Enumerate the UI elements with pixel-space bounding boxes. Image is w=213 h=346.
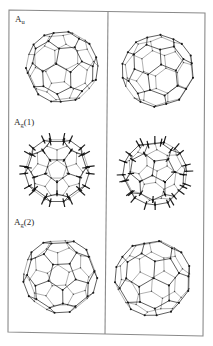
carbon-atom <box>147 143 149 145</box>
carbon-atom <box>37 153 39 155</box>
bond-line <box>125 55 133 65</box>
bond-line <box>57 94 60 102</box>
carbon-atom <box>134 97 136 99</box>
carbon-atom <box>74 99 76 101</box>
carbon-atom <box>81 90 83 92</box>
label-au-sub: u <box>22 18 25 25</box>
bond-line <box>146 204 155 205</box>
bond-line <box>161 143 171 150</box>
column-divider <box>105 11 108 334</box>
bond-line <box>161 65 176 71</box>
carbon-atom <box>55 99 57 101</box>
carbon-atom <box>152 199 154 201</box>
bond-line <box>49 41 60 48</box>
carbon-atom <box>29 154 31 156</box>
carbon-atom <box>125 302 127 304</box>
carbon-atom <box>159 49 161 51</box>
carbon-atom <box>27 259 29 261</box>
carbon-atom <box>50 241 52 243</box>
carbon-atom <box>49 36 51 38</box>
bond-line <box>144 153 154 161</box>
carbon-atom <box>93 271 95 273</box>
molecule-ag1-right <box>117 136 194 210</box>
carbon-atom <box>42 85 44 87</box>
carbon-atom <box>80 255 82 257</box>
carbon-atom <box>35 48 37 50</box>
carbon-atom <box>155 182 157 184</box>
carbon-atom <box>174 291 176 293</box>
carbon-atom <box>139 301 141 303</box>
bond-line <box>88 283 89 296</box>
carbon-atom <box>161 36 163 38</box>
carbon-atom <box>46 145 48 147</box>
carbon-atom <box>186 171 188 173</box>
carbon-atom <box>146 36 148 38</box>
carbon-atom <box>93 61 95 63</box>
carbon-atom <box>139 180 141 182</box>
carbon-atom <box>125 277 127 279</box>
displacement-arrow <box>19 173 28 174</box>
bond-line <box>147 45 161 50</box>
bond-line <box>36 41 49 48</box>
carbon-atom <box>153 277 155 279</box>
carbon-atom <box>147 73 149 75</box>
carbon-atom <box>160 64 162 66</box>
carbon-atom <box>182 58 184 60</box>
carbon-atom <box>76 252 78 254</box>
bond-line <box>151 37 162 41</box>
molecule-ag1-left <box>19 133 94 207</box>
carbon-atom <box>127 77 128 79</box>
bond-line <box>49 265 53 281</box>
carbon-atom <box>134 197 136 199</box>
carbon-atom <box>164 193 166 195</box>
carbon-atom <box>179 152 181 154</box>
carbon-atom <box>167 202 169 204</box>
carbon-atom <box>42 242 44 244</box>
displacement-arrow <box>86 173 95 174</box>
bond-line <box>63 35 66 44</box>
bond-line <box>161 198 170 199</box>
carbon-atom <box>155 105 157 107</box>
bond-line <box>151 252 163 258</box>
bond-line <box>61 100 76 102</box>
carbon-atom <box>146 165 148 167</box>
carbon-atom <box>31 154 33 156</box>
bond-line <box>129 161 130 172</box>
carbon-atom <box>23 273 25 275</box>
carbon-atom <box>156 88 158 90</box>
bond-line <box>170 190 178 199</box>
carbon-atom <box>79 97 81 99</box>
carbon-atom <box>128 80 130 82</box>
carbon-atom <box>24 172 26 174</box>
displacement-arrow <box>163 136 166 145</box>
label-ag1: Ag(1) <box>14 118 34 129</box>
bond-line <box>123 162 125 175</box>
carbon-atom <box>178 272 180 274</box>
carbon-atom <box>68 186 70 188</box>
bond-line <box>125 65 127 78</box>
carbon-atom <box>35 257 37 259</box>
carbon-atom <box>189 273 191 275</box>
bond-line <box>57 87 71 94</box>
carbon-atom <box>72 32 74 34</box>
bond-line <box>130 145 139 154</box>
carbon-atom <box>67 31 69 33</box>
carbon-atom <box>138 286 140 288</box>
bond-line <box>154 278 169 285</box>
carbon-atom <box>22 281 24 283</box>
carbon-atom <box>66 69 68 71</box>
carbon-atom <box>95 56 97 58</box>
carbon-atom <box>79 190 81 192</box>
bond-line <box>47 92 56 100</box>
bond-line <box>144 92 145 101</box>
bond-line <box>55 44 66 50</box>
bond-line <box>56 98 70 100</box>
carbon-atom <box>28 185 30 187</box>
carbon-atom <box>35 269 37 271</box>
carbon-atom <box>73 88 75 90</box>
bond-line <box>76 299 87 308</box>
carbon-atom <box>76 153 78 155</box>
carbon-atom <box>182 268 184 270</box>
carbon-atom <box>178 84 180 86</box>
bond-line <box>46 296 54 306</box>
